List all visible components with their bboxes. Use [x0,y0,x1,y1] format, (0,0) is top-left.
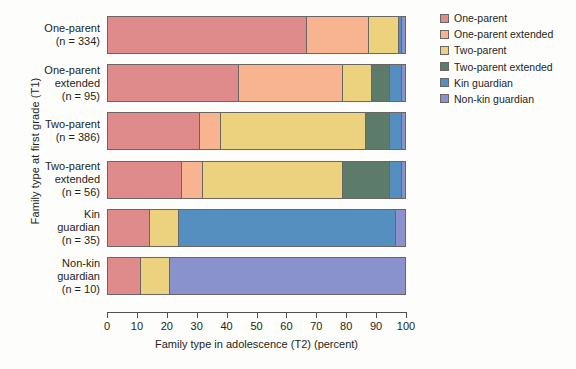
bar-segment [396,210,405,246]
x-axis-tick [197,312,198,318]
category-label-line: (n = 95) [2,90,100,103]
legend-item: One-parent [440,12,572,24]
legend-item: Two-parent [440,44,572,56]
x-axis-tick [376,312,377,318]
category-label-line: extended [2,77,100,90]
x-axis-tick-label: 30 [182,320,212,332]
category-label: Two-parentextended(n = 56) [2,160,100,199]
legend-item: Non-kin guardian [440,93,572,105]
category-label: Two-parent(n = 386) [2,118,100,144]
bar-segment [372,65,390,101]
x-axis: 0102030405060708090100 [107,312,406,313]
bar-segment [108,162,182,198]
legend-swatch-icon [440,78,449,87]
bar-segment [108,113,200,149]
category-label-line: extended [2,173,100,186]
x-axis-tick-label: 0 [92,320,122,332]
bar-segment [239,65,343,101]
x-axis-tick [286,312,287,318]
category-label-line: Non-kin [2,257,100,270]
x-axis-tick [107,312,108,318]
x-axis-tick [257,312,258,318]
legend-swatch-icon [440,14,449,23]
category-label-line: Two-parent [2,118,100,131]
category-label-line: Kin [2,208,100,221]
category-label-line: guardian [2,270,100,283]
legend-label: Non-kin guardian [454,93,534,105]
bar-segment [402,65,405,101]
category-label-line: Two-parent [2,160,100,173]
bar-segment [150,210,180,246]
legend-swatch-icon [440,46,449,55]
category-label-line: guardian [2,221,100,234]
bar-segment [200,113,221,149]
plot-area [107,14,406,306]
bar-segment [108,210,150,246]
figure-family-type-stacked-bar-chart: Family type at first grade (T1) One-pare… [0,0,576,369]
bar-segment [141,258,171,294]
category-label-line: (n = 35) [2,234,100,247]
legend: One-parentOne-parent extendedTwo-parentT… [440,12,572,109]
category-label-line: One-parent [2,22,100,35]
category-label-line: One-parent [2,64,100,77]
category-label: One-parentextended(n = 95) [2,64,100,103]
x-axis-tick-label: 80 [331,320,361,332]
legend-item: One-parent extended [440,28,572,40]
legend-item: Kin guardian [440,77,572,89]
stacked-bar [107,64,406,102]
legend-swatch-icon [440,30,449,39]
legend-label: One-parent extended [454,28,553,40]
category-label-line: (n = 334) [2,35,100,48]
stacked-bar [107,16,406,54]
bar-row [107,64,406,102]
bar-segment [307,17,369,53]
x-axis-tick-label: 50 [242,320,272,332]
category-label: Non-kinguardian(n = 10) [2,257,100,296]
bar-row [107,209,406,247]
bar-segment [390,162,402,198]
legend-label: Kin guardian [454,77,513,89]
category-label-line: (n = 56) [2,186,100,199]
stacked-bar [107,161,406,199]
legend-swatch-icon [440,62,449,71]
bar-segment [108,17,307,53]
x-axis-tick-label: 10 [122,320,152,332]
bar-segment [108,65,239,101]
x-axis-tick [227,312,228,318]
legend-label: Two-parent [454,44,507,56]
bar-segment [343,65,373,101]
bar-segment [369,17,399,53]
bar-segment [179,210,396,246]
legend-item: Two-parent extended [440,61,572,73]
x-axis-tick [316,312,317,318]
bar-segment [182,162,203,198]
category-label-line: (n = 10) [2,283,100,296]
x-axis-tick [346,312,347,318]
bar-segment [390,113,402,149]
stacked-bar [107,209,406,247]
bar-segment [402,17,405,53]
x-axis-tick-label: 90 [361,320,391,332]
x-axis-title: Family type in adolescence (T2) (percent… [107,338,406,350]
x-axis-tick-label: 60 [271,320,301,332]
bar-segment [402,113,405,149]
bar-row [107,112,406,150]
x-axis-tick [406,312,407,318]
bar-segment [390,65,402,101]
bar-segment [170,258,405,294]
category-label: One-parent(n = 334) [2,22,100,48]
legend-swatch-icon [440,94,449,103]
x-axis-tick-label: 100 [391,320,421,332]
category-label-line: (n = 386) [2,131,100,144]
bar-segment [203,162,343,198]
bar-segment [108,258,141,294]
legend-label: Two-parent extended [454,61,553,73]
x-axis-tick [137,312,138,318]
x-axis-tick-label: 40 [212,320,242,332]
x-axis-tick-label: 20 [152,320,182,332]
x-axis-tick-label: 70 [301,320,331,332]
bar-segment [366,113,390,149]
stacked-bar [107,257,406,295]
bar-segment [343,162,391,198]
bar-row [107,161,406,199]
